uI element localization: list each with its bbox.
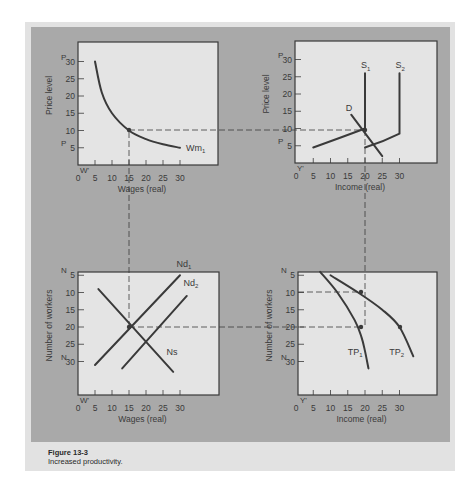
x-tick-label: 10 <box>107 403 117 413</box>
y-tick-label: 15 <box>283 106 293 116</box>
x-axis-title: Wages (real) <box>118 184 167 194</box>
x-tick-label: 25 <box>378 171 388 181</box>
four-quadrant-chart: 05101520253051015202530PPW'Wages (real)P… <box>0 0 476 497</box>
series-label-ns: Ns <box>166 347 177 357</box>
x-tick-label: 5 <box>311 171 316 181</box>
x-tick-label: 15 <box>343 403 353 413</box>
series-label-d: D <box>346 103 353 113</box>
y-tick-label: 15 <box>66 305 76 315</box>
x-tick-label: 20 <box>141 403 151 413</box>
x-tick-label: 5 <box>93 173 98 183</box>
y-tick-label: 30 <box>283 55 293 65</box>
y-axis-title: Price level <box>261 74 271 113</box>
y-tick-label: 30 <box>286 357 296 367</box>
series-label-nd1: Nd1 <box>177 259 193 271</box>
figure-number: Figure 13-3 <box>48 448 122 457</box>
figure-caption-text: Increased productivity. <box>48 457 122 466</box>
y-axis-title: Number of workers <box>264 290 274 362</box>
x-tick-label: 25 <box>158 403 168 413</box>
x-tick-label: 30 <box>395 403 405 413</box>
x-axis-title: Income (real) <box>335 182 385 192</box>
y-tick-label: 20 <box>286 322 296 332</box>
y-tick-label: 25 <box>286 339 296 349</box>
x-tick-label: 15 <box>124 403 134 413</box>
x-tick-label: 20 <box>360 403 370 413</box>
y-tick-label: 30 <box>66 57 76 67</box>
x-tick-label: 30 <box>395 171 405 181</box>
x-tick-label: 10 <box>326 403 336 413</box>
y-tick-label: 15 <box>286 305 296 315</box>
x-axis-marker: Y' <box>300 396 307 405</box>
y-tick-label: 15 <box>66 108 76 118</box>
x-tick-label: 5 <box>93 403 98 413</box>
y-tick-label: 25 <box>283 72 293 82</box>
y-axis-marker: N <box>61 353 67 362</box>
y-tick-label: 5 <box>70 270 75 280</box>
x-tick-label: 25 <box>378 403 388 413</box>
x-tick-label: 5 <box>311 403 316 413</box>
x-tick-label: 10 <box>107 173 117 183</box>
x-axis-title: Wages (real) <box>118 414 167 424</box>
y-tick-label: 20 <box>66 91 76 101</box>
y-tick-label: 20 <box>66 322 76 332</box>
x-axis-marker: W' <box>80 396 90 405</box>
x-tick-label: 20 <box>360 171 370 181</box>
y-axis-marker: P <box>278 51 283 60</box>
y-tick-label: 20 <box>283 89 293 99</box>
x-tick-label: 15 <box>124 173 134 183</box>
x-tick-label: 0 <box>294 403 299 413</box>
y-tick-label: 10 <box>66 288 76 298</box>
y-tick-label: 10 <box>286 288 296 298</box>
x-tick-label: 15 <box>343 171 353 181</box>
plot-area-bottom-right <box>298 272 437 395</box>
y-axis-marker: P <box>61 139 66 148</box>
x-axis-marker: Y' <box>297 164 304 173</box>
x-tick-label: 30 <box>175 403 185 413</box>
y-tick-label: 10 <box>66 126 76 136</box>
y-tick-label: 5 <box>70 143 75 153</box>
x-tick-label: 25 <box>158 173 168 183</box>
figure-caption: Figure 13-3 Increased productivity. <box>48 448 122 466</box>
y-axis-marker: N <box>61 266 67 275</box>
y-tick-label: 25 <box>66 74 76 84</box>
y-axis-marker: P <box>278 137 283 146</box>
y-tick-label: 10 <box>283 124 293 134</box>
y-axis-marker: P <box>61 53 66 62</box>
x-axis-title: Income (real) <box>336 414 386 424</box>
y-tick-label: 30 <box>66 357 76 367</box>
y-axis-title: Price level <box>44 76 54 115</box>
x-axis-marker: W' <box>80 166 90 175</box>
x-tick-label: 20 <box>141 173 151 183</box>
y-axis-marker: N <box>281 353 287 362</box>
x-tick-label: 30 <box>175 173 185 183</box>
y-axis-marker: N <box>281 266 287 275</box>
y-axis-title: Number of workers <box>44 290 54 362</box>
y-tick-label: 5 <box>287 141 292 151</box>
x-tick-label: 10 <box>326 171 336 181</box>
y-tick-label: 25 <box>66 339 76 349</box>
y-tick-label: 5 <box>290 270 295 280</box>
